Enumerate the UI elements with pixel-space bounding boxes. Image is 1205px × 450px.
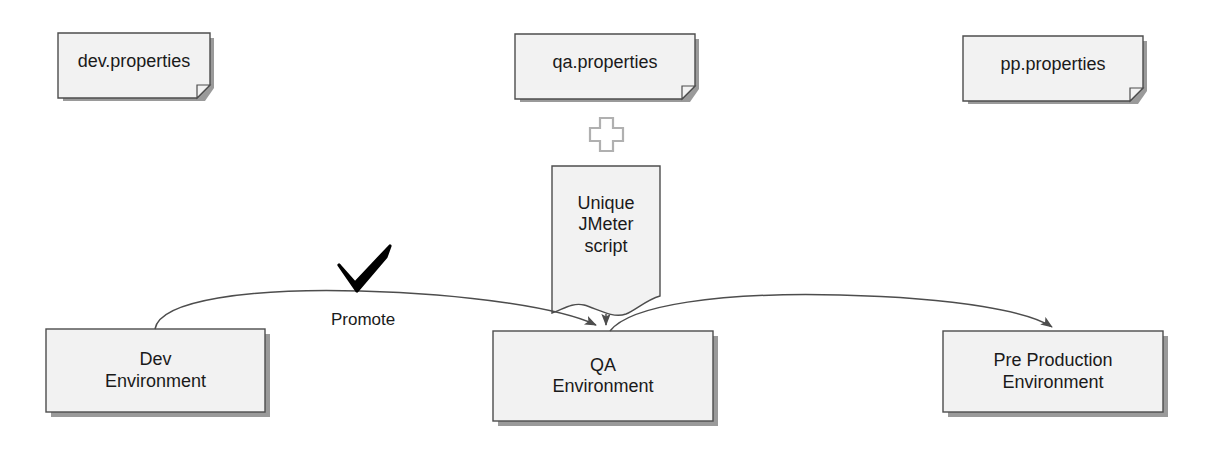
note-qa-properties[interactable] bbox=[515, 34, 695, 99]
note-pp-properties[interactable] bbox=[963, 36, 1143, 101]
node-unique-jmeter-script[interactable] bbox=[552, 166, 660, 315]
edge-dev-to-qa-label: Promote bbox=[331, 310, 395, 330]
note-dev-properties[interactable] bbox=[58, 33, 210, 98]
diagram-canvas: dev.properties qa.properties pp.properti… bbox=[0, 0, 1205, 450]
plus-operator-icon bbox=[590, 118, 623, 151]
edge-qa-to-pp bbox=[610, 295, 1052, 331]
node-pre-production-environment[interactable] bbox=[943, 331, 1163, 412]
approval-check-icon bbox=[339, 246, 390, 291]
node-dev-environment[interactable] bbox=[46, 329, 265, 412]
diagram-vector-layer bbox=[0, 0, 1205, 450]
node-qa-environment[interactable] bbox=[493, 331, 713, 421]
